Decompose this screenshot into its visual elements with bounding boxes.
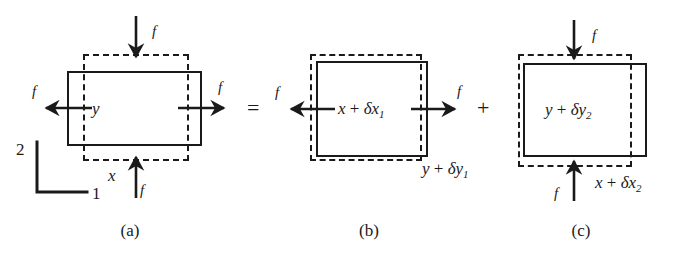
panel-c-caption: (c) [551,222,611,239]
panel-a-height-label: y [92,100,100,117]
panel-b-bottom-expression: y + δy1 [422,160,469,180]
panel-a-force-left-label: f [32,84,36,99]
equals-operator: = [247,97,259,119]
panel-a-force-bottom-label: f [140,183,144,198]
panel-a-width-label: x [108,167,116,184]
panel-c-center-expression: y + δy2 [545,101,592,121]
panel-a-force-top-label: f [152,24,156,39]
panel-b-center-expression: x + δx1 [338,100,385,120]
axis-horizontal-label: 1 [92,185,101,202]
panel-b-force-left-label: f [275,85,279,100]
panel-c-force-bottom-label: f [554,186,558,201]
panel-c-force-top-label: f [592,28,596,43]
plus-operator: + [477,97,489,119]
panel-a-solid-rectangle [67,71,202,146]
panel-a-force-right-label: f [218,80,222,95]
panel-b-caption: (b) [339,222,399,239]
panel-c-bottom-expression: x + δx2 [595,174,642,194]
figure-canvas: y x f f f f 2 1 (a) = x + δx1 y + δy1 f … [0,0,675,253]
axis-indicator [37,142,87,192]
panel-a-caption: (a) [100,222,160,239]
axis-vertical-label: 2 [16,141,25,158]
panel-b-force-right-label: f [457,84,461,99]
